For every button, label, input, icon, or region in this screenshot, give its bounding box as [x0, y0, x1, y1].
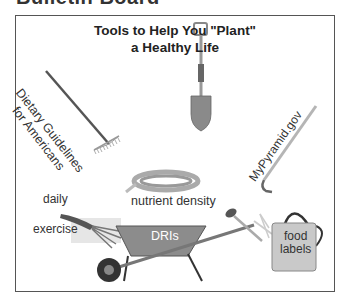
board-title: Tools to Help You "Plant" a Healthy Life	[16, 22, 334, 56]
hose-label: nutrient density	[131, 194, 216, 208]
garden-hose-icon	[126, 172, 198, 192]
page-heading: Bulletin Board	[16, 0, 160, 9]
cultivator-label-top: daily	[43, 192, 68, 206]
bulletin-board: Tools to Help You "Plant" a Healthy Life…	[15, 15, 335, 292]
wheelbarrow-label: DRIs	[151, 229, 179, 243]
watering-can-label: food labels	[280, 230, 311, 256]
cultivator-label-bottom: exercise	[33, 222, 78, 236]
